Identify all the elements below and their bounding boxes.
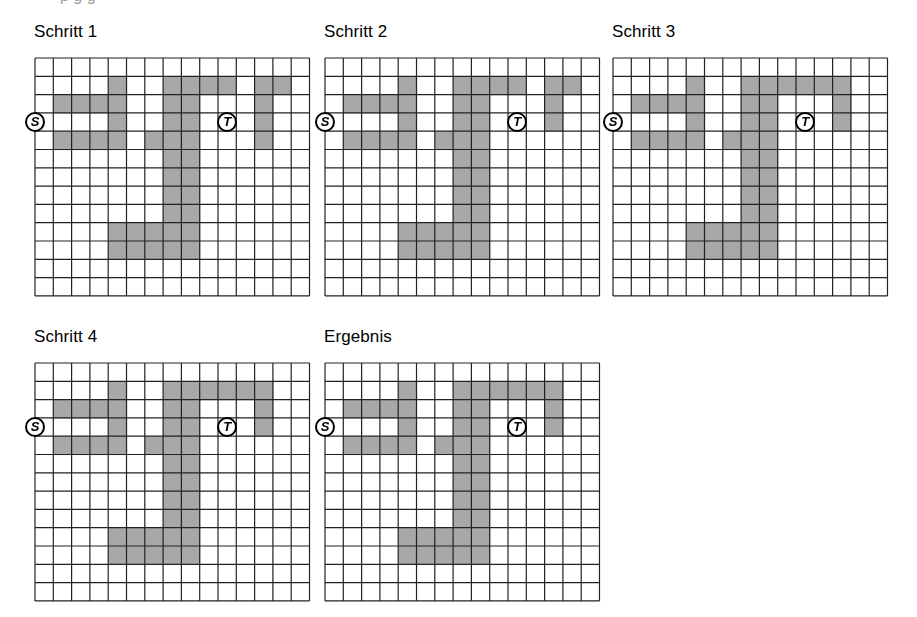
diagram-page: p g g Schritt 1STSchritt 2STSchritt 3STS… xyxy=(0,0,917,617)
grid-canvas-wrap-ergebnis: ST xyxy=(324,362,601,602)
clipped-header-text: p g g xyxy=(60,0,96,5)
grid-canvas-wrap-schritt-3: ST xyxy=(612,57,889,297)
maze-grid-schritt-2 xyxy=(324,57,601,297)
grid-schritt-4: ST xyxy=(34,362,311,602)
panel-title-schritt-1: Schritt 1 xyxy=(34,22,97,42)
grid-canvas-wrap-schritt-2: ST xyxy=(324,57,601,297)
grid-schritt-1: ST xyxy=(34,57,311,297)
start-node-marker: S xyxy=(25,417,45,437)
maze-grid-ergebnis xyxy=(324,362,601,602)
panel-title-schritt-3: Schritt 3 xyxy=(612,22,675,42)
maze-grid-schritt-1 xyxy=(34,57,311,297)
grid-schritt-3: ST xyxy=(612,57,889,297)
maze-grid-schritt-4 xyxy=(34,362,311,602)
grid-canvas-wrap-schritt-4: ST xyxy=(34,362,311,602)
clipped-header-strip: p g g xyxy=(0,0,917,10)
start-node-marker: S xyxy=(315,417,335,437)
panel-title-schritt-4: Schritt 4 xyxy=(34,327,97,347)
grid-schritt-2: ST xyxy=(324,57,601,297)
grid-canvas-wrap-schritt-1: ST xyxy=(34,57,311,297)
grid-ergebnis: ST xyxy=(324,362,601,602)
panel-title-ergebnis: Ergebnis xyxy=(324,327,392,347)
start-node-marker: S xyxy=(315,112,335,132)
maze-grid-schritt-3 xyxy=(612,57,889,297)
panel-title-schritt-2: Schritt 2 xyxy=(324,22,387,42)
start-node-marker: S xyxy=(603,112,623,132)
start-node-marker: S xyxy=(25,112,45,132)
